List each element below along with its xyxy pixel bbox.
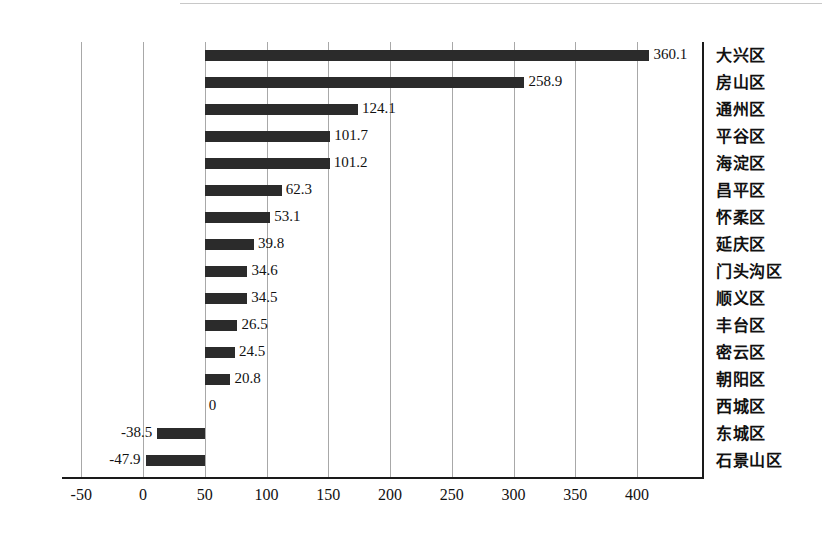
bar-value-label: 26.5 bbox=[241, 314, 267, 334]
bar-value-label: 39.8 bbox=[258, 233, 284, 253]
bar-怀柔区 bbox=[205, 212, 271, 223]
bar-value-label: 62.3 bbox=[286, 179, 312, 199]
bar-房山区 bbox=[205, 77, 525, 88]
category-label: 昌平区 bbox=[716, 177, 822, 204]
category-label: 顺义区 bbox=[716, 285, 822, 312]
x-tick-label: 100 bbox=[255, 482, 279, 508]
bar-丰台区 bbox=[205, 320, 238, 331]
bar-昌平区 bbox=[205, 185, 282, 196]
category-label: 丰台区 bbox=[716, 312, 822, 339]
bar-value-label: 258.9 bbox=[528, 71, 562, 91]
bar-门头沟区 bbox=[205, 266, 248, 277]
category-label: 东城区 bbox=[716, 420, 822, 447]
category-label: 通州区 bbox=[716, 96, 822, 123]
table-row: 34.5 bbox=[62, 285, 703, 312]
plot-area: 360.1258.9124.1101.7101.262.353.139.834.… bbox=[62, 42, 703, 478]
table-row: 53.1 bbox=[62, 204, 703, 231]
x-tick-label: 250 bbox=[440, 482, 464, 508]
bar-东城区 bbox=[157, 428, 205, 439]
table-row: 26.5 bbox=[62, 312, 703, 339]
table-row: 101.7 bbox=[62, 123, 703, 150]
category-label: 石景山区 bbox=[716, 447, 822, 474]
x-axis-line bbox=[62, 477, 703, 479]
category-label-column: 大兴区房山区通州区平谷区海淀区昌平区怀柔区延庆区门头沟区顺义区丰台区密云区朝阳区… bbox=[716, 42, 822, 474]
x-tick-label: 150 bbox=[316, 482, 340, 508]
bar-value-label: 34.6 bbox=[251, 260, 277, 280]
category-label: 门头沟区 bbox=[716, 258, 822, 285]
category-label: 西城区 bbox=[716, 393, 822, 420]
bar-value-label: 20.8 bbox=[234, 368, 260, 388]
category-label: 平谷区 bbox=[716, 123, 822, 150]
bar-平谷区 bbox=[205, 131, 331, 142]
x-tick-label: 350 bbox=[563, 482, 587, 508]
table-row: 360.1 bbox=[62, 42, 703, 69]
x-tick-label: 400 bbox=[625, 482, 649, 508]
x-tick-label: -50 bbox=[71, 482, 92, 508]
x-tick-labels: -50050100150200250300350400 bbox=[0, 482, 822, 512]
bar-value-label: 124.1 bbox=[362, 98, 396, 118]
table-row: -38.5 bbox=[62, 420, 703, 447]
table-row: 20.8 bbox=[62, 366, 703, 393]
bar-石景山区 bbox=[146, 455, 205, 466]
table-row: 34.6 bbox=[62, 258, 703, 285]
bar-value-label: 34.5 bbox=[251, 287, 277, 307]
bar-密云区 bbox=[205, 347, 235, 358]
x-tick-label: 50 bbox=[197, 482, 213, 508]
category-label: 密云区 bbox=[716, 339, 822, 366]
x-tick-label: 300 bbox=[502, 482, 526, 508]
bar-大兴区 bbox=[205, 50, 650, 61]
bar-海淀区 bbox=[205, 158, 330, 169]
table-row: 24.5 bbox=[62, 339, 703, 366]
category-label: 朝阳区 bbox=[716, 366, 822, 393]
bar-通州区 bbox=[205, 104, 358, 115]
horizontal-bar-chart: 360.1258.9124.1101.7101.262.353.139.834.… bbox=[0, 0, 822, 540]
bar-value-label: 101.2 bbox=[334, 152, 368, 172]
table-row: 258.9 bbox=[62, 69, 703, 96]
category-label: 延庆区 bbox=[716, 231, 822, 258]
table-row: 124.1 bbox=[62, 96, 703, 123]
bar-顺义区 bbox=[205, 293, 248, 304]
category-label: 大兴区 bbox=[716, 42, 822, 69]
category-label: 怀柔区 bbox=[716, 204, 822, 231]
bar-value-label: 24.5 bbox=[239, 341, 265, 361]
category-label: 海淀区 bbox=[716, 150, 822, 177]
plot-right-border bbox=[702, 42, 704, 479]
table-row: 0 bbox=[62, 393, 703, 420]
bar-朝阳区 bbox=[205, 374, 231, 385]
x-tick-label: 0 bbox=[139, 482, 147, 508]
table-row: 62.3 bbox=[62, 177, 703, 204]
category-label: 房山区 bbox=[716, 69, 822, 96]
x-tick-label: 200 bbox=[378, 482, 402, 508]
bar-value-label: -47.9 bbox=[109, 449, 140, 469]
bar-value-label: 360.1 bbox=[653, 44, 687, 64]
table-row: -47.9 bbox=[62, 447, 703, 474]
bar-value-label: 0 bbox=[209, 395, 217, 415]
table-row: 39.8 bbox=[62, 231, 703, 258]
table-row: 101.2 bbox=[62, 150, 703, 177]
bar-value-label: -38.5 bbox=[121, 422, 152, 442]
bar-value-label: 101.7 bbox=[334, 125, 368, 145]
bar-延庆区 bbox=[205, 239, 254, 250]
bar-value-label: 53.1 bbox=[274, 206, 300, 226]
